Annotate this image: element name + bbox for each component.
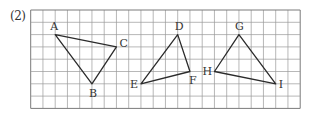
vertex-label-f: F xyxy=(189,74,197,87)
grid-diagram: ABCDEFGHI xyxy=(0,0,310,124)
vertex-label-c: C xyxy=(119,37,127,50)
vertex-label-b: B xyxy=(89,87,97,100)
vertex-label-g: G xyxy=(235,20,244,33)
triangles: ABCDEFGHI xyxy=(49,20,283,100)
grid xyxy=(31,10,301,108)
vertex-label-e: E xyxy=(130,78,138,91)
triangle-abc: ABC xyxy=(49,20,128,100)
vertex-label-a: A xyxy=(49,20,59,33)
vertex-label-d: D xyxy=(175,20,184,33)
triangle-def: DEF xyxy=(130,20,197,91)
vertex-label-h: H xyxy=(202,65,212,78)
vertex-label-i: I xyxy=(279,78,283,91)
